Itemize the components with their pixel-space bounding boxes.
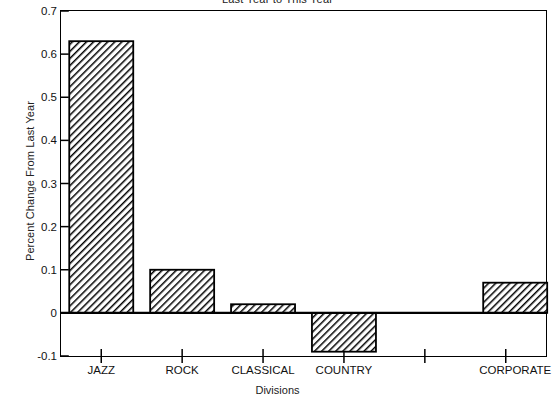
x-axis-title: Divisions — [0, 384, 555, 396]
bar-series — [69, 41, 547, 352]
bar-fill — [483, 283, 547, 313]
bar — [312, 313, 376, 352]
bar-fill — [312, 313, 376, 352]
x-tick-label-country: COUNTRY — [316, 364, 373, 376]
bar-fill — [150, 270, 214, 313]
bar-fill — [231, 304, 295, 313]
x-tick-label-rock: ROCK — [166, 364, 199, 376]
bar — [483, 283, 547, 313]
x-tick-label-jazz: JAZZ — [88, 364, 115, 376]
bar — [69, 41, 133, 313]
x-tick-label-classical: CLASSICAL — [231, 364, 294, 376]
x-tick-label-corporate: CORPORATE — [479, 364, 551, 376]
y-axis-title: Percent Change From Last Year — [24, 66, 36, 296]
plot-area — [0, 0, 555, 402]
bar — [231, 304, 295, 313]
bar-chart: Last Year to This Year 0.70.60.50.40.30.… — [0, 0, 555, 402]
bar — [150, 270, 214, 313]
bar-fill — [69, 41, 133, 313]
